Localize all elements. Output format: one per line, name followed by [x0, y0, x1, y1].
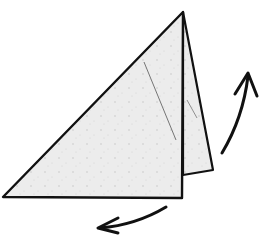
front-triangle — [3, 12, 183, 198]
origami-diagram — [0, 0, 264, 240]
diagram-canvas — [0, 0, 264, 240]
fold-down-arrow — [98, 207, 166, 233]
back-flap — [183, 12, 213, 175]
fold-up-arrow — [222, 73, 257, 153]
